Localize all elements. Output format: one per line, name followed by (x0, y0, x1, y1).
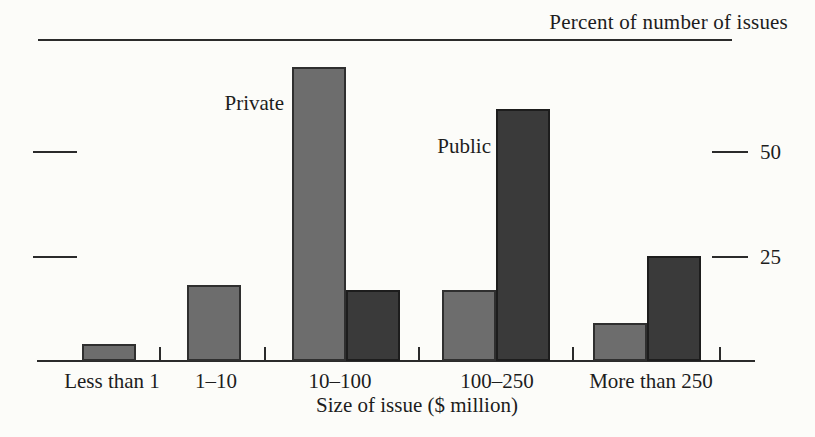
bar-private-100-250 (442, 290, 496, 361)
y-tick-label-25: 25 (760, 245, 781, 269)
x-tick-label-more-than-250: More than 250 (589, 369, 713, 394)
bar-private-10-100 (292, 67, 346, 361)
bar-public-100-250 (496, 109, 550, 361)
bar-public-10-100 (346, 290, 400, 361)
chart-title: Percent of number of issues (549, 10, 788, 35)
x-tick-label-less-than-1: Less than 1 (64, 369, 160, 394)
y-tick-right-50 (712, 151, 748, 153)
x-tick-label-10-100: 10–100 (309, 369, 372, 394)
y-tick-label-50: 50 (760, 140, 781, 164)
x-axis-separator-tick-4 (572, 347, 574, 361)
y-tick-left-25 (33, 256, 77, 258)
x-axis-title: Size of issue ($ million) (316, 393, 518, 418)
bar-public-more-than-250 (647, 256, 701, 361)
bar-chart-figure: Percent of number of issues Size of issu… (0, 0, 815, 437)
x-tick-label-100-250: 100–250 (460, 369, 534, 394)
y-tick-right-25 (712, 256, 748, 258)
x-axis-separator-tick-3 (418, 347, 420, 361)
bar-private-more-than-250 (593, 323, 647, 361)
x-axis-separator-tick-1 (159, 347, 161, 361)
series-label-public: Public (437, 134, 491, 159)
x-tick-label-1-10: 1–10 (195, 369, 237, 394)
top-rule-line (38, 39, 732, 41)
series-label-private: Private (225, 91, 284, 116)
bar-private-1-10 (187, 285, 241, 361)
x-axis-separator-tick-5 (719, 347, 721, 361)
bar-private-less-than-1 (82, 344, 136, 361)
y-tick-left-50 (33, 151, 77, 153)
x-axis-separator-tick-2 (264, 347, 266, 361)
